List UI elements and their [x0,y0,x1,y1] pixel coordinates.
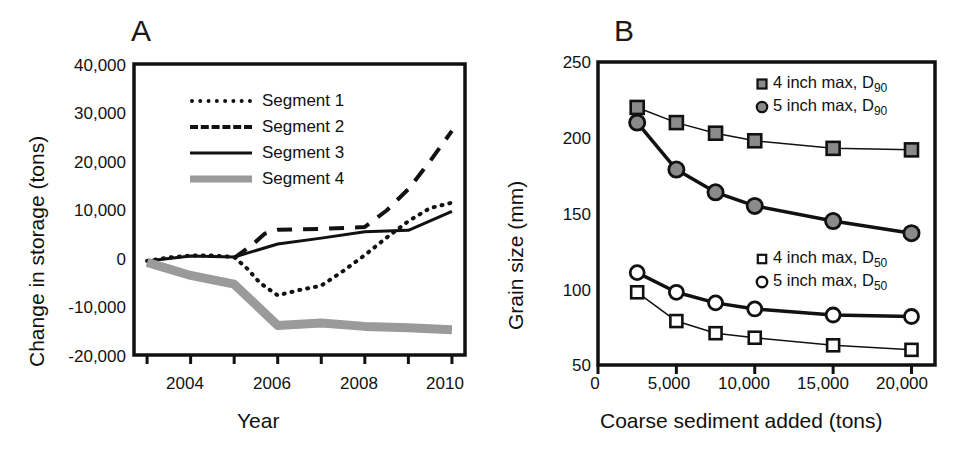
panel-a-series-1 [147,203,452,296]
panel-b-marker-s2-p3 [747,198,762,213]
panel-b-marker-s3-p3 [749,332,761,344]
panel-b: B Grain size (mm) Coarse sediment added … [483,0,973,452]
panel-b-marker-s1-p5 [905,143,918,156]
panel-b-marker-s4-p1 [669,285,683,299]
panel-b-marker-s3-p5 [905,344,917,356]
panel-b-marker-s4-p5 [904,310,918,324]
panel-b-marker-s4-p4 [826,308,840,322]
panel-b-marker-s3-p2 [710,327,722,339]
panel-a-series-2 [234,131,452,258]
panel-b-marker-s3-p1 [670,315,682,327]
panel-b-plot [483,0,973,452]
panel-b-marker-s4-p2 [709,296,723,310]
panel-b-marker-s1-p1 [670,116,683,129]
panel-b-marker-s1-p2 [709,127,722,140]
figure-root: A Change in storage (tons) Year 40,000 3… [0,0,973,452]
panel-b-marker-s4-p0 [630,266,644,280]
panel-b-axes-frame [598,62,935,365]
panel-b-marker-s2-p2 [708,185,723,200]
panel-b-marker-s2-p1 [669,162,684,177]
panel-b-marker-s2-p5 [904,226,919,241]
panel-b-marker-s3-p0 [631,286,643,298]
panel-b-marker-s4-p3 [748,302,762,316]
panel-a-series-3 [147,211,452,260]
panel-b-marker-s1-p3 [748,134,761,147]
panel-b-marker-s2-p0 [630,115,645,130]
panel-a: A Change in storage (tons) Year 40,000 3… [0,0,490,452]
panel-a-plot [0,0,490,452]
panel-b-marker-s3-p4 [827,339,839,351]
panel-b-marker-s1-p0 [631,101,644,114]
panel-b-marker-s2-p4 [826,213,841,228]
panel-b-marker-s1-p4 [827,142,840,155]
panel-a-axes-frame [134,64,465,355]
panel-a-series-4 [147,262,452,329]
